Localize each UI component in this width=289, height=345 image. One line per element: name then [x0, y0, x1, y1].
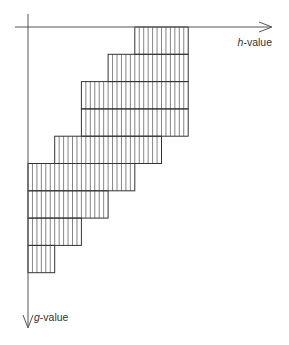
staircase-diagram: h-value g-value [0, 0, 289, 345]
h-axis-label: h-value [238, 36, 273, 48]
g-axis [23, 14, 33, 328]
g-axis-label: g-value [34, 311, 69, 323]
